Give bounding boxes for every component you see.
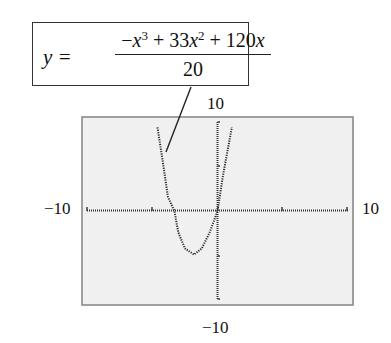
equation-callout-box: y = −x3 + 33x2 + 120x 20 [32, 22, 249, 86]
equation-numerator: −x3 + 33x2 + 120x [115, 28, 271, 52]
xmax-label: 10 [362, 199, 379, 219]
ymax-label: 10 [207, 94, 224, 114]
ymin-label: −10 [202, 318, 229, 338]
equation-denominator: 20 [115, 57, 271, 81]
xmin-label: −10 [44, 199, 71, 219]
equation-lhs: y = [43, 45, 72, 70]
fraction-bar [115, 54, 271, 55]
equation-fraction: −x3 + 33x2 + 120x 20 [115, 28, 271, 81]
